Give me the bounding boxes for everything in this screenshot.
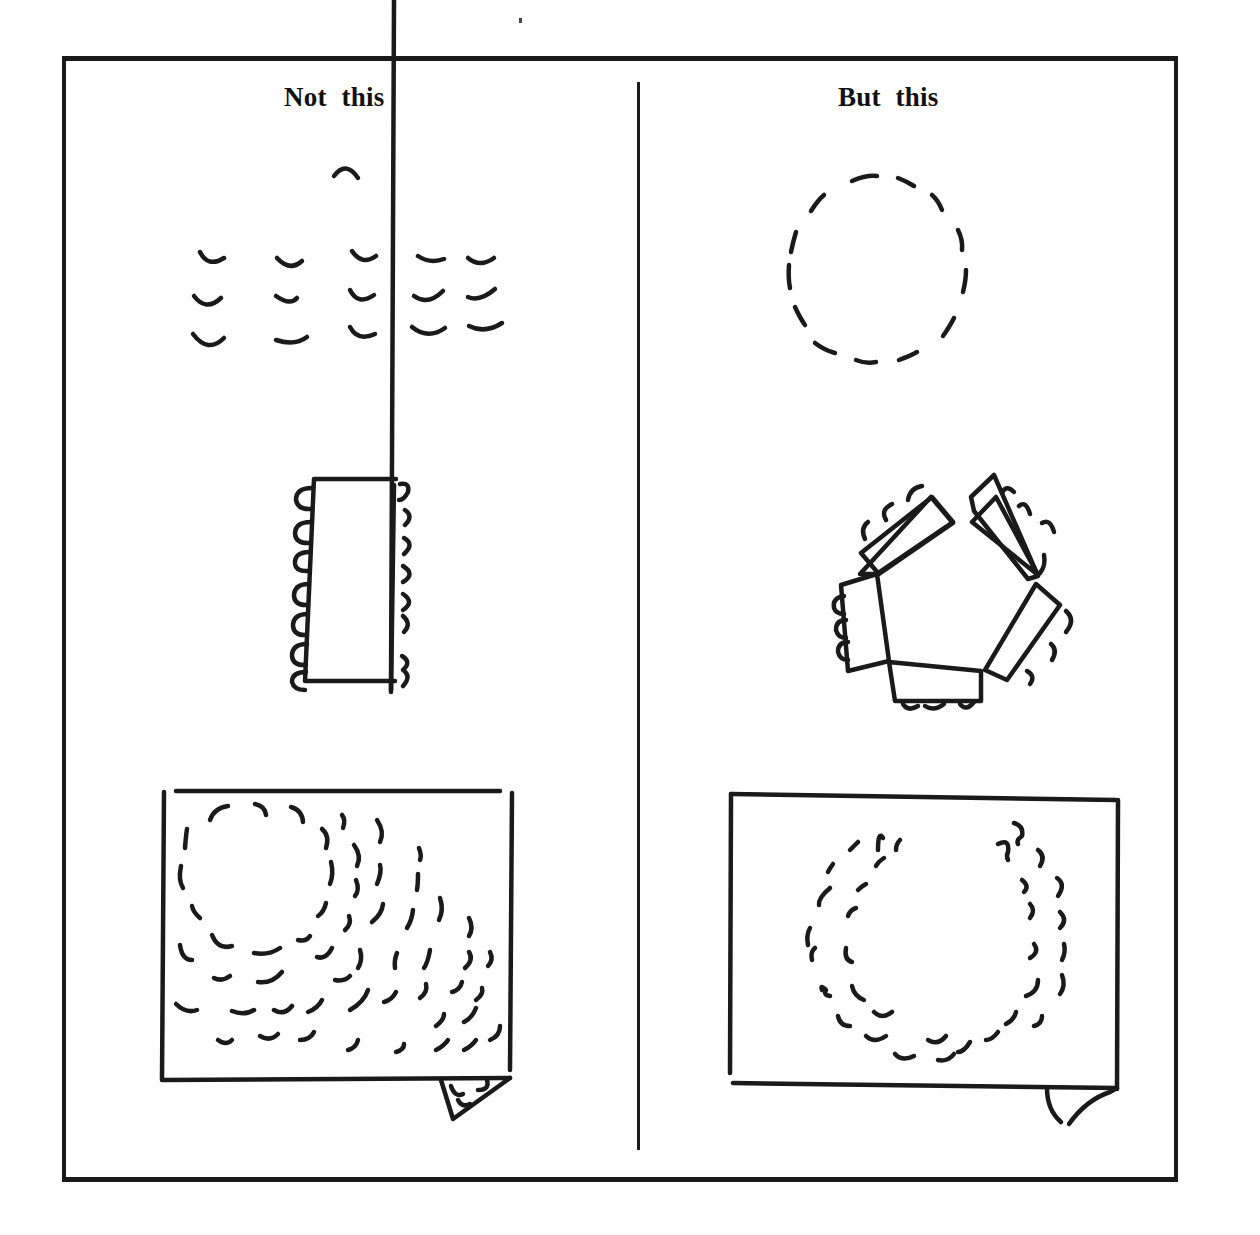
panel-circle — [789, 176, 966, 363]
panel-flipchart-horseshoe — [730, 794, 1118, 1124]
page-curl — [1047, 1088, 1117, 1124]
panel-rows — [193, 168, 502, 345]
table-bottom — [889, 662, 981, 701]
seating-diagram — [0, 0, 1260, 1235]
panel-flipchart-theatre — [162, 791, 512, 1119]
panel-pentagon-tables — [834, 475, 1071, 709]
table-outline — [305, 479, 396, 681]
presenter-seat-icon — [334, 168, 358, 178]
table-right — [985, 584, 1060, 680]
table-left — [841, 574, 889, 671]
panel-long-table — [292, 0, 410, 692]
